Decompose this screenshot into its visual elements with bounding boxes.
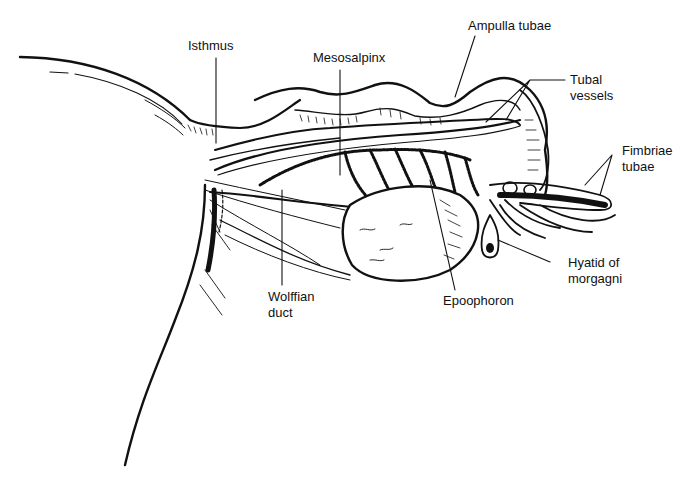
fimbriae — [490, 183, 615, 238]
label-mesosalpinx: Mesosalpinx — [313, 50, 385, 66]
tubal-vessel — [215, 120, 520, 170]
label-ampulla-tubae: Ampulla tubae — [468, 18, 551, 34]
fallopian-tube-outline — [255, 78, 547, 195]
ovary — [343, 186, 478, 280]
epoophoron-tubules — [260, 149, 470, 185]
leader-hyatid — [498, 240, 550, 262]
uterus-side-outline — [125, 185, 205, 465]
label-hyatid-of-morgagni: Hyatid of morgagni — [568, 255, 622, 287]
uterus-fundus-outline — [20, 57, 190, 120]
label-isthmus: Isthmus — [188, 38, 234, 54]
leader-fimbriae — [585, 155, 612, 195]
label-wolffian-duct: Wolffian duct — [268, 289, 315, 321]
label-epoophoron: Epoophoron — [443, 293, 514, 309]
wolffian-duct-line — [210, 192, 370, 208]
label-fimbriae-tubae: Fimbriae tubae — [622, 143, 673, 175]
anatomy-diagram: Isthmus Mesosalpinx Ampulla tubae Tubal … — [0, 0, 684, 485]
label-tubal-vessels: Tubal vessels — [570, 72, 613, 104]
leader-ampulla — [455, 36, 475, 97]
